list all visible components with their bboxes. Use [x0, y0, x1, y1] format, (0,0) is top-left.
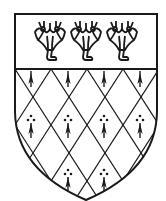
- coat-of-arms: [0, 0, 166, 201]
- shield-figure: [0, 0, 166, 201]
- shield-chief: [15, 14, 157, 69]
- shield-field: [0, 69, 166, 201]
